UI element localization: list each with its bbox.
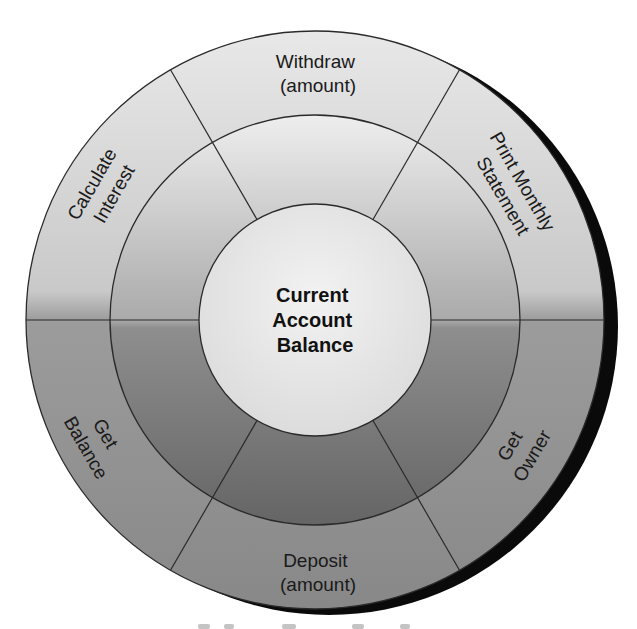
center-label: Current Account Balance (272, 284, 358, 356)
center-label-line-1: Current (276, 284, 349, 306)
encapsulation-diagram: Current Account Balance Withdraw (amount… (0, 0, 637, 629)
center-label-line-2: Account (272, 309, 352, 331)
center-label-line-3: Balance (277, 334, 354, 356)
cropped-caption (198, 624, 410, 629)
